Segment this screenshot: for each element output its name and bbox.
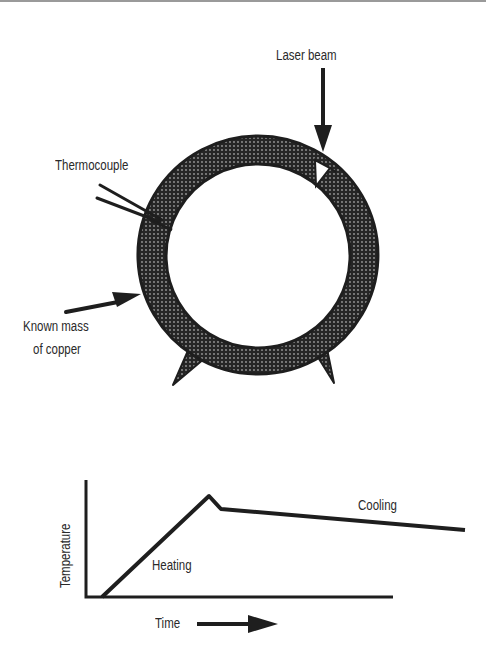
temperature-curve: [102, 496, 465, 597]
laser-beam-label: Laser beam: [276, 47, 337, 63]
copper-ring: [138, 136, 378, 374]
known-mass-label-line2: of copper: [33, 341, 81, 357]
y-axis-label: Temperature: [57, 524, 73, 588]
x-axis-label: Time: [155, 615, 180, 631]
known-mass-arrow: [66, 292, 141, 312]
chart-axes: [86, 480, 393, 597]
known-mass-label-line1: Known mass: [23, 318, 89, 334]
cooling-annotation: Cooling: [358, 497, 397, 513]
heating-annotation: Heating: [152, 557, 192, 573]
time-arrow: [197, 615, 278, 633]
laser-beam-arrow: [314, 68, 332, 152]
thermocouple-label: Thermocouple: [55, 157, 128, 173]
